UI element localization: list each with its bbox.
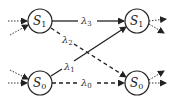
outgoing-arrows-right-s1: [149, 19, 166, 33]
node-right-s1: S1: [125, 9, 149, 33]
outgoing-arrows-right-s0: [149, 71, 166, 83]
edge-lambda0: λ0: [52, 77, 124, 90]
node-left-s1: S1: [28, 9, 52, 33]
edge-label-lambda1: λ1: [63, 61, 75, 74]
incoming-arrows-left-s1: [8, 21, 28, 35]
edge-label-lambda2: λ2: [61, 34, 73, 47]
edge-lambda2: λ2: [51, 28, 126, 77]
edge-label-lambda0: λ0: [80, 77, 92, 90]
state-transition-diagram: λ3 λ2 λ1 λ0 S1 S1 S0 S0: [0, 0, 177, 108]
node-left-s0: S0: [28, 71, 52, 95]
edge-lambda3: λ3: [52, 15, 124, 28]
incoming-arrows-left-s0: [8, 70, 28, 83]
edge-label-lambda3: λ3: [80, 15, 92, 28]
node-right-s0: S0: [125, 71, 149, 95]
